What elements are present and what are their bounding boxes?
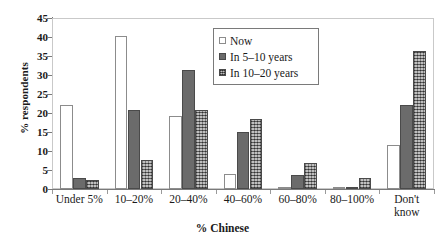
chart-legend: Now In 5–10 years In 10–20 years bbox=[213, 28, 319, 85]
bar bbox=[413, 51, 426, 189]
y-axis-tick-mark bbox=[47, 113, 52, 114]
y-axis-tick-mark bbox=[47, 75, 52, 76]
x-axis-tick-mark bbox=[325, 190, 326, 194]
y-axis-tick-mark bbox=[47, 151, 52, 152]
x-axis-tick-label: Don'tknow bbox=[373, 193, 440, 219]
x-axis-tick-mark bbox=[52, 190, 53, 194]
x-axis-tick-mark bbox=[434, 190, 435, 194]
y-axis-tick-label: 20 bbox=[26, 108, 48, 119]
bar bbox=[333, 187, 346, 189]
bar bbox=[278, 187, 291, 189]
bar bbox=[250, 119, 263, 189]
x-axis-tick-mark bbox=[270, 190, 271, 194]
bar bbox=[169, 116, 182, 189]
legend-swatch-now-icon bbox=[219, 37, 226, 44]
legend-label-now: Now bbox=[230, 35, 252, 47]
legend-item-in-5-10-years: In 5–10 years bbox=[219, 49, 313, 64]
y-axis-tick-mark bbox=[47, 170, 52, 171]
bar bbox=[86, 180, 99, 189]
x-axis-tick-mark bbox=[379, 190, 380, 194]
y-axis-tick-label: 5 bbox=[26, 165, 48, 176]
x-axis-tick-mark bbox=[216, 190, 217, 194]
bar bbox=[291, 175, 304, 189]
y-axis-tick-label: 40 bbox=[26, 32, 48, 43]
y-axis-tick-mark bbox=[47, 37, 52, 38]
y-axis-tick-label: 35 bbox=[26, 51, 48, 62]
y-axis-tick-labels: 051015202530354045 bbox=[26, 13, 48, 189]
bar-chart: % respondents 051015202530354045 Now In … bbox=[0, 0, 445, 239]
bar bbox=[141, 160, 154, 189]
bar bbox=[195, 110, 208, 189]
y-axis-tick-mark bbox=[47, 94, 52, 95]
x-axis-title: % Chinese bbox=[0, 222, 445, 234]
bar bbox=[237, 132, 250, 189]
legend-label-in-5-10-years: In 5–10 years bbox=[230, 51, 293, 63]
y-axis-tick-label: 0 bbox=[26, 184, 48, 195]
bar bbox=[115, 36, 128, 189]
y-axis-tick-label: 15 bbox=[26, 127, 48, 138]
x-axis-tick-mark bbox=[107, 190, 108, 194]
bar bbox=[73, 178, 86, 189]
x-axis-line bbox=[52, 189, 435, 190]
bar bbox=[346, 187, 359, 189]
bar bbox=[60, 105, 73, 189]
y-axis-tick-label: 25 bbox=[26, 89, 48, 100]
legend-swatch-in-10-20-years-icon bbox=[219, 69, 226, 76]
bar bbox=[182, 70, 195, 189]
y-axis-tick-mark bbox=[47, 132, 52, 133]
bar bbox=[400, 105, 413, 189]
y-axis-tick-label: 30 bbox=[26, 70, 48, 81]
x-axis-tick-label-line: know bbox=[373, 206, 440, 219]
bar bbox=[359, 178, 372, 189]
y-axis-tick-mark bbox=[47, 56, 52, 57]
legend-label-in-10-20-years: In 10–20 years bbox=[230, 67, 298, 79]
legend-swatch-in-5-10-years-icon bbox=[219, 53, 226, 60]
x-axis-tick-mark bbox=[161, 190, 162, 194]
x-axis-tick-label-line: Don't bbox=[373, 193, 440, 206]
bar bbox=[304, 163, 317, 189]
y-axis-tick-mark bbox=[47, 18, 52, 19]
legend-item-now: Now bbox=[219, 33, 313, 48]
x-axis-tick-labels: Under 5%10–20%20–40%40–60%60–80%80–100%D… bbox=[52, 193, 434, 225]
y-axis-tick-label: 45 bbox=[26, 13, 48, 24]
bar bbox=[224, 174, 237, 189]
y-axis-tick-label: 10 bbox=[26, 146, 48, 157]
legend-item-in-10-20-years: In 10–20 years bbox=[219, 65, 313, 80]
bar bbox=[128, 110, 141, 189]
bar bbox=[387, 145, 400, 189]
